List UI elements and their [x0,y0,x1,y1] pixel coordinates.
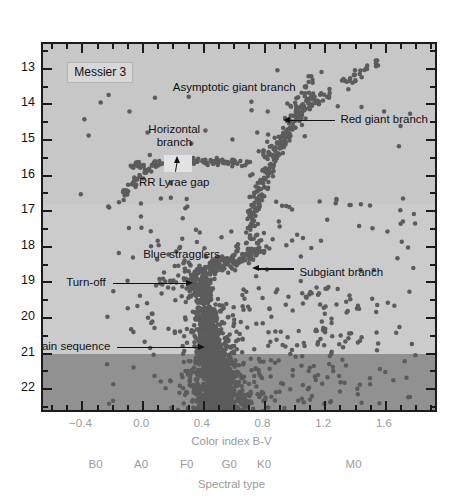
spectral-type-a0: A0 [134,458,148,470]
x-tick-label: −0.4 [69,417,92,429]
x-tick-label: 0.4 [194,417,210,429]
color-magnitude-diagram: Messier 3 Asymptotic giant branchRed gia… [0,0,463,499]
x-tick-label: 0.0 [133,417,149,429]
spectral-type-f0: F0 [180,458,193,470]
spectral-type-m0: M0 [346,458,362,470]
spectral-type-b0: B0 [89,458,103,470]
spectral-type-title: Spectral type [0,478,463,490]
spectral-type-k0: K0 [257,458,271,470]
x-tick-label: 1.6 [376,417,392,429]
x-tick-label: 0.8 [255,417,271,429]
x-axis-title: Color index B-V [0,435,463,447]
x-axis-tick-labels: −0.40.00.40.81.21.6 [0,0,463,499]
x-tick-label: 1.2 [315,417,331,429]
spectral-type-g0: G0 [221,458,236,470]
